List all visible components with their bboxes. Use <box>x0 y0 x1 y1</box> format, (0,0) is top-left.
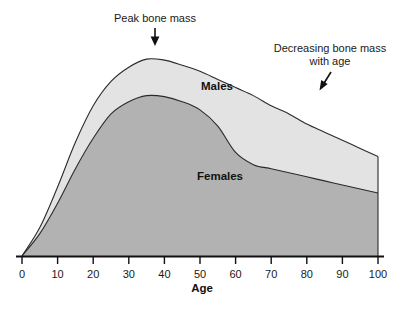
bone-mass-chart-figure: 0102030405060708090100 Age Males Females… <box>0 0 405 309</box>
x-tick-label: 40 <box>158 268 170 280</box>
x-tick-label: 90 <box>336 268 348 280</box>
x-tick-label: 10 <box>51 268 63 280</box>
chart-canvas: 0102030405060708090100 Age Males Females… <box>0 0 405 309</box>
series-label-males: Males <box>201 80 233 92</box>
x-tick-label: 100 <box>369 268 387 280</box>
x-tick-label: 20 <box>87 268 99 280</box>
x-axis-title: Age <box>191 282 213 294</box>
x-tick-label: 0 <box>19 268 25 280</box>
annotation-decreasing-bone-mass-line2: with age <box>309 55 351 67</box>
x-tick-label: 30 <box>123 268 135 280</box>
series-label-females: Females <box>197 170 243 182</box>
annotation-peak-bone-mass-text: Peak bone mass <box>114 12 196 24</box>
x-tick-label: 80 <box>301 268 313 280</box>
x-tick-label: 50 <box>194 268 206 280</box>
x-tick-label: 60 <box>229 268 241 280</box>
x-tick-label: 70 <box>265 268 277 280</box>
annotation-decreasing-bone-mass-line1: Decreasing bone mass <box>274 42 387 54</box>
